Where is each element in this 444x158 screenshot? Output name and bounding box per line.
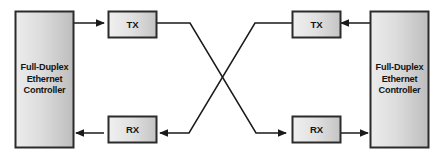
- right-controller-box: [371, 12, 429, 148]
- ethernet-crossover-diagram: Full-Duplex Ethernet Controller Full-Dup…: [0, 0, 444, 158]
- left-tx-box: [109, 12, 157, 38]
- left-rx-box: [109, 117, 157, 143]
- left-controller-box: [16, 12, 74, 148]
- right-tx-box: [293, 12, 341, 38]
- diagram-canvas: [0, 0, 444, 158]
- right-rx-box: [293, 117, 341, 143]
